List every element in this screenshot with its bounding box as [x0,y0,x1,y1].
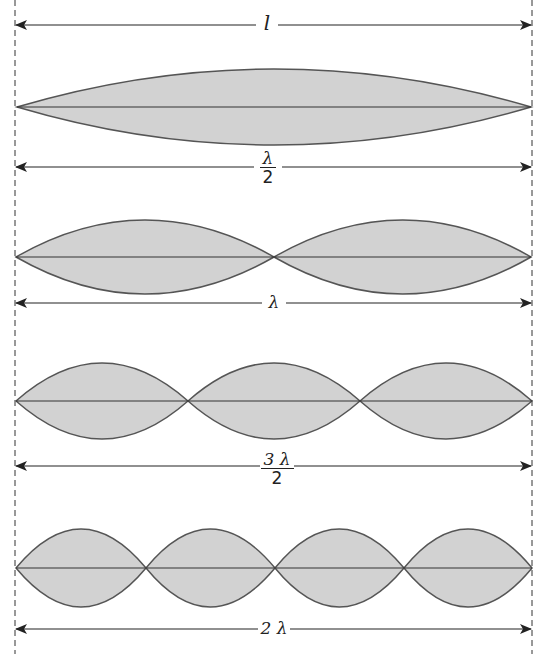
mode-2-label: λ [262,293,286,311]
wave-mode-3 [16,363,532,439]
mode-3-numerator: 3 λ [261,450,294,469]
mode-1-numerator: λ [260,149,277,168]
mode-3-label: 3 λ2 [260,450,294,487]
length-label: l [256,14,278,32]
standing-wave-diagram [0,0,550,654]
wave-mode-4 [16,529,532,607]
wave-mode-1 [17,69,531,145]
wave-mode-2 [16,220,531,294]
mode-1-denominator: 2 [263,168,274,186]
mode-4-label: 2 λ [258,619,290,637]
mode-1-label: λ2 [254,149,282,186]
mode-3-denominator: 2 [272,469,283,487]
